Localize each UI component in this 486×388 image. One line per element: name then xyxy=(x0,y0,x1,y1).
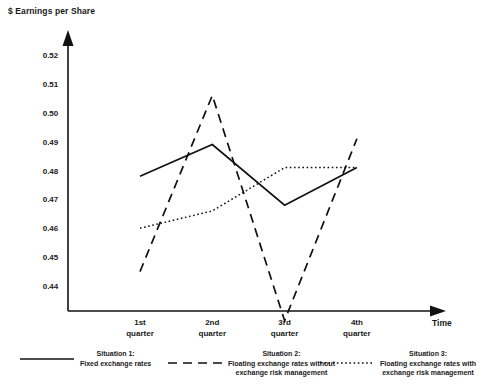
y-tick-label: 0.50 xyxy=(24,108,58,117)
y-tick-label: 0.52 xyxy=(24,51,58,60)
legend-swatch-dotted xyxy=(320,357,374,369)
y-tick-label: 0.45 xyxy=(24,253,58,262)
earnings-per-share-chart: $ Earnings per Share Time 0.440.450.460.… xyxy=(0,0,486,388)
x-axis xyxy=(68,306,446,317)
legend-label-1: Situation 1:Fixed exchange rates xyxy=(80,349,151,368)
x-tick-label: 3rdquarter xyxy=(250,318,320,339)
y-tick-label: 0.49 xyxy=(24,137,58,146)
y-tick-label: 0.47 xyxy=(24,195,58,204)
y-tick-label: 0.51 xyxy=(24,79,58,88)
chart-legend: Situation 1:Fixed exchange ratesSituatio… xyxy=(0,349,486,388)
series-line-solid xyxy=(140,145,357,206)
legend-item-3[interactable]: Situation 3:Floating exchange rates with… xyxy=(320,349,476,378)
legend-item-2[interactable]: Situation 2:Floating exchange rates with… xyxy=(168,349,335,378)
y-axis xyxy=(63,30,74,311)
y-tick-label: 0.44 xyxy=(24,282,58,291)
legend-swatch-solid xyxy=(20,353,74,365)
legend-item-1[interactable]: Situation 1:Fixed exchange rates xyxy=(20,349,151,368)
series-line-dotted xyxy=(140,168,357,229)
x-tick-label: 4thquarter xyxy=(322,318,392,339)
legend-label-2: Situation 2:Floating exchange rates with… xyxy=(228,349,335,378)
y-tick-label: 0.46 xyxy=(24,224,58,233)
legend-label-3: Situation 3:Floating exchange rates with… xyxy=(380,349,476,378)
series-line-dashed xyxy=(140,95,357,320)
y-tick-label: 0.48 xyxy=(24,166,58,175)
x-tick-label: 1stquarter xyxy=(105,318,175,339)
series-layer xyxy=(140,95,357,320)
x-tick-label: 2ndquarter xyxy=(177,318,247,339)
legend-swatch-dashed xyxy=(168,357,222,369)
